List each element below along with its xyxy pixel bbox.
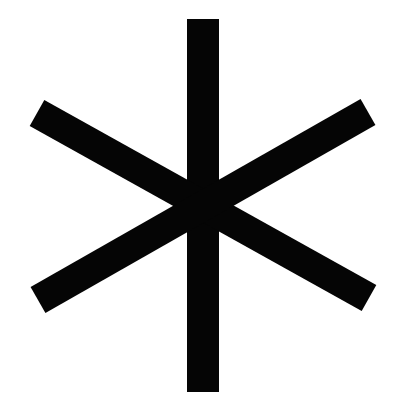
figure-canvas: six-pointed asterisk symbol	[0, 0, 415, 420]
asterisk-icon	[0, 0, 415, 420]
